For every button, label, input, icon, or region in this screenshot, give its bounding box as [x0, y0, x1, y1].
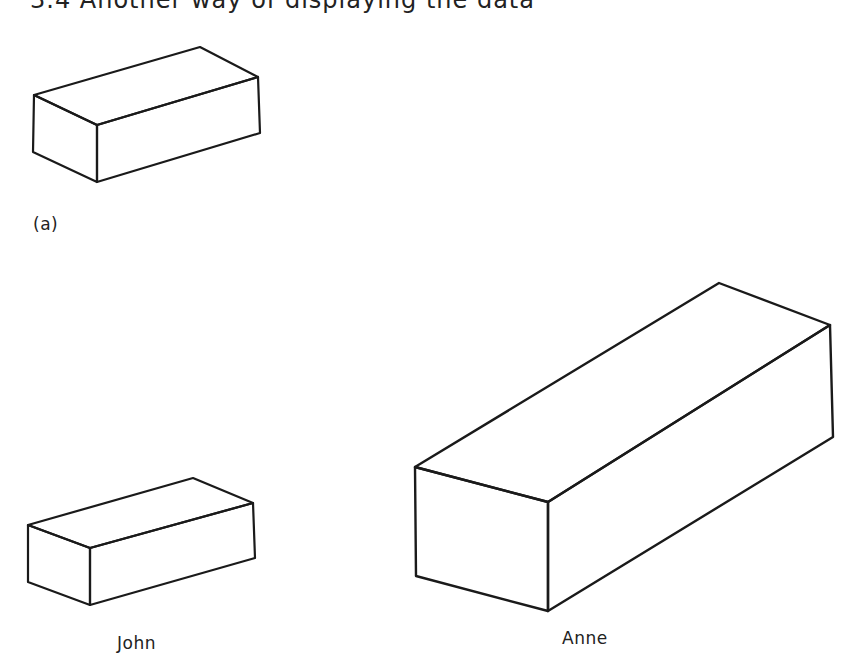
reference-box — [33, 47, 260, 182]
john-label: John — [117, 633, 156, 653]
john-box-left-face — [28, 525, 90, 605]
anne-box-top-face — [415, 283, 830, 502]
reference-box-left-face — [33, 95, 97, 182]
panel-label: (a) — [33, 214, 58, 234]
anne-box-front-face — [548, 325, 833, 611]
reference-box-front-face — [97, 77, 260, 182]
anne-box — [415, 283, 833, 611]
anne-label: Anne — [562, 628, 608, 648]
box-diagram — [0, 0, 848, 656]
anne-box-left-face — [415, 467, 548, 611]
john-box-front-face — [90, 503, 255, 605]
john-box — [28, 478, 255, 605]
